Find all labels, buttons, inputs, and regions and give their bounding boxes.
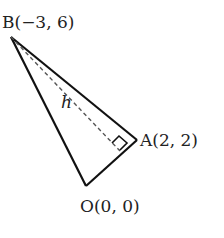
side-BO [11,37,86,186]
right-angle-marker [112,136,127,150]
triangle-diagram: B(−3, 6) A(2, 2) O(0, 0) h [0,0,224,238]
label-B: B(−3, 6) [2,12,74,32]
label-O: O(0, 0) [80,196,140,216]
label-h: h [61,92,72,112]
side-BA [11,37,137,140]
side-OA [86,140,137,186]
label-A: A(2, 2) [139,130,198,150]
